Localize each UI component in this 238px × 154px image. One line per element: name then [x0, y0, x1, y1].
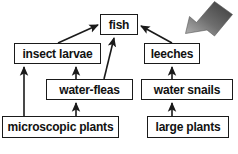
node-water-snails-label: water snails — [154, 84, 220, 96]
node-water-fleas[interactable]: water-fleas — [46, 79, 133, 100]
node-fish-label: fish — [109, 19, 130, 31]
node-water-fleas-label: water-fleas — [59, 84, 120, 96]
node-microscopic-plants-label: microscopic plants — [8, 121, 114, 133]
node-leeches-label: leeches — [151, 48, 194, 60]
node-large-plants-label: large plants — [156, 121, 221, 133]
arrow-water-fleas-to-fish — [104, 38, 114, 79]
node-insect-larvae[interactable]: insect larvae — [14, 43, 101, 64]
food-web-diagram: fish insect larvae leeches water-fleas w… — [0, 0, 238, 154]
node-large-plants[interactable]: large plants — [147, 116, 229, 138]
node-insect-larvae-label: insect larvae — [22, 48, 92, 60]
node-water-snails[interactable]: water snails — [141, 79, 233, 100]
node-leeches[interactable]: leeches — [144, 43, 200, 64]
node-fish[interactable]: fish — [100, 14, 138, 35]
node-microscopic-plants[interactable]: microscopic plants — [2, 116, 119, 138]
arrow-leeches-to-fish — [141, 26, 172, 43]
gray-pointer-arrow — [183, 0, 235, 40]
arrow-insect-larvae-to-fish — [58, 25, 98, 43]
